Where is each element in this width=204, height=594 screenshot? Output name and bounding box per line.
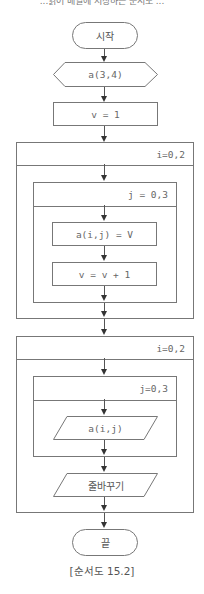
increment-process-box: v = v + 1 [52, 262, 157, 286]
arrow-down-icon [101, 311, 107, 317]
arrow-down-icon [101, 329, 107, 335]
end-label: 끝 [101, 535, 110, 550]
arrow-down-icon [101, 449, 107, 455]
arrow-down-icon [101, 409, 107, 415]
loop2-inner-label: j=0,3 [139, 383, 168, 394]
arrow-down-icon [101, 175, 107, 181]
newline-label: 줄바꾸기 [53, 473, 158, 497]
figure-caption: [순서도 15.2] [0, 563, 204, 578]
arrow-down-icon [101, 522, 107, 528]
output-label: a(i,j) [53, 416, 158, 440]
loop2-outer-header: i=0,2 [17, 337, 193, 360]
arrow-down-icon [101, 255, 107, 261]
arrow-down-icon [101, 466, 107, 472]
cut-off-text-line: ...읽어 배열에 저장하는 순서도 ... [0, 0, 204, 6]
increment-label: v = v + 1 [79, 269, 130, 280]
connector-line [104, 87, 105, 96]
end-terminal: 끝 [72, 529, 138, 556]
init-label: v = 1 [91, 109, 120, 120]
arrow-down-icon [101, 215, 107, 221]
connector-line [104, 358, 105, 369]
loop1-outer-label: i=0,2 [156, 149, 185, 160]
loop2-inner-header: j=0,3 [34, 377, 176, 401]
loop1-inner-label: j = 0,3 [128, 189, 168, 200]
arrow-down-icon [101, 505, 107, 511]
start-label: 시작 [96, 28, 114, 43]
loop1-inner-header: j = 0,3 [34, 183, 176, 207]
connector-line [104, 164, 105, 175]
loop1-outer-header: i=0,2 [17, 143, 193, 166]
declare-label: a(3,4) [53, 62, 158, 87]
connector-line [104, 126, 105, 136]
init-process-box: v = 1 [53, 102, 158, 126]
arrow-down-icon [101, 295, 107, 301]
assign-process-box: a(i,j) = V [52, 222, 157, 246]
loop2-outer-label: i=0,2 [156, 343, 185, 354]
assign-label: a(i,j) = V [76, 229, 133, 240]
start-terminal: 시작 [72, 22, 138, 49]
arrow-down-icon [101, 369, 107, 375]
